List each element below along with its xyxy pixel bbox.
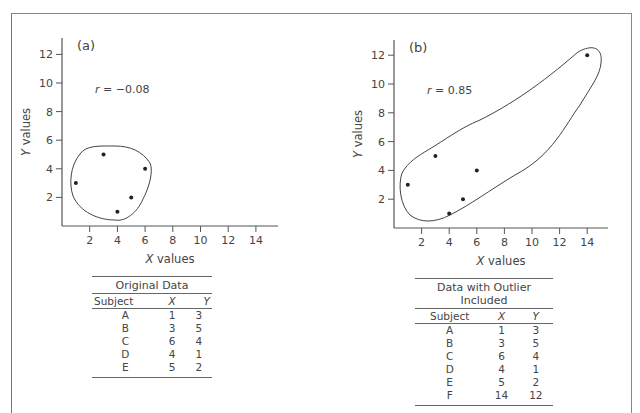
- col-y: Y: [519, 309, 553, 324]
- x-tick-label: 14: [249, 234, 263, 247]
- correlation-annotation: r = −0.08: [95, 83, 149, 96]
- cell-y: 5: [186, 322, 212, 335]
- y-tick-label: 2: [46, 191, 53, 204]
- cell-y: 2: [186, 361, 212, 378]
- cluster-outline: [400, 48, 601, 221]
- y-tick-label: 12: [371, 49, 385, 62]
- cell-x: 5: [484, 376, 518, 389]
- cell-subject: E: [415, 376, 484, 389]
- x-tick-label: 12: [221, 234, 235, 247]
- panel-label: (a): [77, 38, 95, 53]
- y-tick-label: 10: [39, 77, 53, 90]
- cell-subject: D: [92, 348, 159, 361]
- table-row: B35: [92, 322, 212, 335]
- cell-x: 6: [484, 350, 518, 363]
- cluster-outline: [71, 146, 151, 220]
- table-row: F1412: [415, 389, 553, 406]
- x-axis-label: X values: [145, 252, 195, 266]
- cell-x: 3: [159, 322, 186, 335]
- y-tick-label: 6: [378, 136, 385, 149]
- x-axis-label: X values: [476, 254, 526, 268]
- y-tick-label: 4: [378, 164, 385, 177]
- cell-y: 3: [519, 324, 553, 338]
- cell-y: 2: [519, 376, 553, 389]
- table-row: E52: [415, 376, 553, 389]
- y-tick-label: 10: [371, 78, 385, 91]
- panel-label: (b): [409, 40, 427, 55]
- cell-subject: C: [415, 350, 484, 363]
- data-point-B: [433, 154, 437, 158]
- table-original-data: Original Data Subject X Y A13B35C64D41E5…: [92, 276, 212, 378]
- data-point-E: [461, 197, 465, 201]
- cell-y: 1: [519, 363, 553, 376]
- cell-subject: B: [415, 337, 484, 350]
- correlation-annotation: r = 0.85: [427, 84, 472, 97]
- data-point-D: [115, 210, 119, 214]
- cell-x: 3: [484, 337, 518, 350]
- col-x: X: [159, 294, 186, 309]
- cell-subject: A: [415, 324, 484, 338]
- table-row: A13: [92, 309, 212, 323]
- cell-y: 3: [186, 309, 212, 323]
- y-axis-label: Y values: [19, 108, 33, 156]
- chart-a: 246810121424681012X valuesY values(a)r =…: [19, 38, 278, 266]
- cell-subject: D: [415, 363, 484, 376]
- table-row: E52: [92, 361, 212, 378]
- table-row: B35: [415, 337, 553, 350]
- data-point-A: [406, 183, 410, 187]
- table-title: Data with Outlier Included: [415, 279, 553, 309]
- x-tick-label: 8: [501, 236, 508, 249]
- cell-y: 5: [519, 337, 553, 350]
- y-tick-label: 4: [46, 163, 53, 176]
- x-tick-label: 2: [418, 236, 425, 249]
- table-row: D41: [415, 363, 553, 376]
- x-tick-label: 10: [194, 234, 208, 247]
- data-point-C: [143, 167, 147, 171]
- data-point-F: [585, 53, 589, 57]
- y-tick-label: 8: [46, 106, 53, 119]
- cell-subject: E: [92, 361, 159, 378]
- cell-y: 1: [186, 348, 212, 361]
- col-x: X: [484, 309, 518, 324]
- data-point-C: [475, 168, 479, 172]
- y-axis-label: Y values: [351, 110, 365, 158]
- table-row: C64: [415, 350, 553, 363]
- table-outlier-data: Data with Outlier Included Subject X Y A…: [415, 278, 553, 406]
- x-tick-label: 6: [473, 236, 480, 249]
- x-tick-label: 4: [446, 236, 453, 249]
- chart-b: 246810121424681012X valuesY values(b)r =…: [351, 40, 608, 268]
- table-row: C64: [92, 335, 212, 348]
- x-tick-label: 2: [86, 234, 93, 247]
- data-point-A: [74, 181, 78, 185]
- x-tick-label: 10: [525, 236, 539, 249]
- table-row: A13: [415, 324, 553, 338]
- cell-y: 12: [519, 389, 553, 406]
- data-point-E: [129, 195, 133, 199]
- x-tick-label: 6: [142, 234, 149, 247]
- x-tick-label: 4: [114, 234, 121, 247]
- y-tick-label: 6: [46, 134, 53, 147]
- x-tick-label: 12: [553, 236, 567, 249]
- cell-subject: A: [92, 309, 159, 323]
- cell-x: 1: [484, 324, 518, 338]
- col-subject: Subject: [415, 309, 484, 324]
- y-tick-label: 12: [39, 48, 53, 61]
- cell-y: 4: [186, 335, 212, 348]
- table-title: Original Data: [92, 277, 212, 294]
- col-y: Y: [186, 294, 212, 309]
- cell-x: 1: [159, 309, 186, 323]
- data-point-B: [102, 153, 106, 157]
- cell-subject: F: [415, 389, 484, 406]
- x-tick-label: 8: [169, 234, 176, 247]
- y-tick-label: 8: [378, 107, 385, 120]
- cell-x: 6: [159, 335, 186, 348]
- cell-y: 4: [519, 350, 553, 363]
- x-tick-label: 14: [580, 236, 594, 249]
- cell-x: 5: [159, 361, 186, 378]
- cell-subject: C: [92, 335, 159, 348]
- table-row: D41: [92, 348, 212, 361]
- col-subject: Subject: [92, 294, 159, 309]
- y-tick-label: 2: [378, 193, 385, 206]
- data-point-D: [447, 212, 451, 216]
- cell-subject: B: [92, 322, 159, 335]
